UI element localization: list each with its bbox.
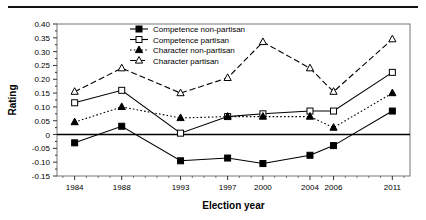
data-point — [330, 124, 337, 131]
x-axis-title: Election year — [202, 200, 264, 211]
x-tick-label: 1984 — [66, 183, 84, 192]
y-tick-label: 0 — [46, 131, 51, 140]
y-tick-label: 0.30 — [34, 48, 50, 57]
data-point — [331, 108, 337, 114]
data-point — [71, 118, 78, 125]
data-point — [259, 38, 266, 45]
x-tick-label: 1993 — [172, 183, 190, 192]
data-point — [224, 74, 231, 81]
y-tick-label: 0.05 — [34, 117, 50, 126]
data-point — [331, 143, 337, 149]
y-tick-label: 0.25 — [34, 61, 50, 70]
legend-marker — [135, 46, 142, 53]
y-tick-label: 0.20 — [34, 75, 50, 84]
series-line — [75, 93, 393, 128]
legend-label: Competence partisan — [153, 36, 229, 45]
legend-marker — [136, 26, 142, 32]
legend-label: Character non-partisan — [153, 46, 235, 55]
series-line — [75, 111, 393, 164]
data-point — [72, 100, 78, 106]
data-point — [225, 155, 231, 161]
figure: -0.15-0.10-0.0500.050.100.150.200.250.30… — [0, 0, 426, 220]
data-point — [307, 152, 313, 158]
x-tick-label: 1997 — [219, 183, 237, 192]
y-tick-label: -0.10 — [32, 158, 51, 167]
legend-label: Competence non-partisan — [153, 25, 245, 34]
legend-marker — [135, 57, 142, 64]
y-axis-title: Rating — [7, 84, 18, 115]
y-tick-label: -0.15 — [32, 172, 51, 181]
data-point — [306, 64, 313, 71]
x-tick-label: 2011 — [384, 183, 402, 192]
legend-label: Character partisan — [153, 57, 219, 66]
x-tick-label: 2000 — [254, 183, 272, 192]
data-point — [389, 69, 395, 75]
data-point — [119, 87, 125, 93]
chart-canvas: -0.15-0.10-0.0500.050.100.150.200.250.30… — [0, 0, 426, 220]
y-tick-label: -0.05 — [32, 144, 51, 153]
data-point — [72, 140, 78, 146]
data-point — [389, 89, 396, 96]
data-point — [260, 161, 266, 167]
x-tick-label: 1988 — [113, 183, 131, 192]
data-point — [118, 103, 125, 110]
y-tick-label: 0.35 — [34, 34, 50, 43]
y-tick-label: 0.10 — [34, 103, 50, 112]
data-point — [178, 158, 184, 164]
y-tick-label: 0.15 — [34, 89, 50, 98]
legend-marker — [136, 37, 142, 43]
line-chart: -0.15-0.10-0.0500.050.100.150.200.250.30… — [0, 0, 426, 220]
y-tick-label: 0.40 — [34, 20, 50, 29]
data-point — [118, 64, 125, 71]
data-point — [389, 35, 396, 42]
data-point — [119, 123, 125, 129]
x-tick-label: 2004 — [301, 183, 319, 192]
data-point — [389, 108, 395, 114]
data-point — [178, 130, 184, 136]
x-tick-label: 2006 — [325, 183, 343, 192]
